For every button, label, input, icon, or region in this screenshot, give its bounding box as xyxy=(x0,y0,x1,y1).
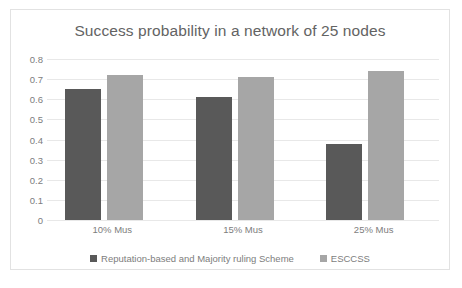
x-axis-tick-label: 15% Mus xyxy=(183,224,303,235)
bar xyxy=(196,97,232,220)
x-axis-tick-label: 10% Mus xyxy=(52,224,172,235)
chart-title: Success probability in a network of 25 n… xyxy=(11,22,449,40)
legend-swatch-icon xyxy=(90,255,97,262)
chart-frame: Success probability in a network of 25 n… xyxy=(10,9,450,270)
y-axis-tick-label: 0.4 xyxy=(30,134,43,145)
legend-swatch-icon xyxy=(320,255,327,262)
chart-legend: Reputation-based and Majority ruling Sch… xyxy=(11,253,449,264)
bar-group xyxy=(308,59,439,220)
legend-label: Reputation-based and Majority ruling Sch… xyxy=(101,253,294,264)
bar xyxy=(326,144,362,220)
bar-group xyxy=(47,59,178,220)
bar xyxy=(238,77,274,220)
bar xyxy=(368,71,404,220)
bar-group xyxy=(178,59,309,220)
y-axis-tick-label: 0 xyxy=(38,215,43,226)
y-axis-tick-label: 0.8 xyxy=(30,54,43,65)
y-axis-tick-label: 0.2 xyxy=(30,174,43,185)
y-axis-tick-label: 0.3 xyxy=(30,154,43,165)
bars-layer xyxy=(47,59,439,220)
legend-item[interactable]: Reputation-based and Majority ruling Sch… xyxy=(90,253,294,264)
legend-item[interactable]: ESCCSS xyxy=(320,253,370,264)
y-axis-tick-label: 0.6 xyxy=(30,94,43,105)
legend-label: ESCCSS xyxy=(331,253,370,264)
bar xyxy=(107,75,143,220)
x-axis-tick-label: 25% Mus xyxy=(314,224,434,235)
y-axis-tick-label: 0.7 xyxy=(30,74,43,85)
bar xyxy=(65,89,101,220)
y-axis-tick-label: 0.1 xyxy=(30,194,43,205)
x-axis: 10% Mus15% Mus25% Mus xyxy=(47,224,439,242)
y-axis-tick-label: 0.5 xyxy=(30,114,43,125)
gridline xyxy=(47,220,439,221)
y-axis: 0.80.70.60.50.40.30.20.10 xyxy=(13,59,45,220)
